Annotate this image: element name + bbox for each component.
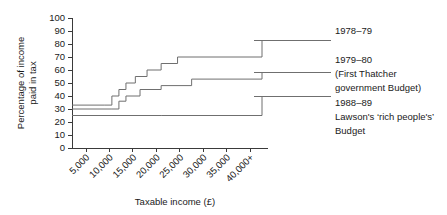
- x-tick-label: 30,000: [180, 152, 208, 180]
- series-line-2: [72, 73, 262, 109]
- x-axis-ticks: [86, 148, 250, 152]
- series-line-3: [72, 96, 262, 116]
- data-series-group: [72, 40, 262, 115]
- y-tick-label: 20: [54, 116, 65, 127]
- chart-container: 0102030405060708090100 5,00010,00015,000…: [0, 0, 447, 215]
- x-tick-label: 15,000: [110, 152, 138, 180]
- legend-label-1-line-1: 1978–79: [335, 25, 372, 36]
- legend-label-3-line-3: Budget: [335, 125, 365, 136]
- x-tick-label: 20,000: [134, 152, 162, 180]
- y-axis-title-line-1: Percentage of income: [15, 37, 26, 129]
- legend-label-2-line-2: (First Thatcher: [335, 68, 397, 79]
- y-tick-label: 100: [49, 12, 65, 23]
- chart-svg: 0102030405060708090100 5,00010,00015,000…: [0, 0, 447, 215]
- legend-label-3-line-2: Lawson's ‘rich people's’: [335, 111, 434, 122]
- y-tick-label: 0: [60, 142, 65, 153]
- series-line-1: [72, 40, 262, 105]
- x-tick-label: 25,000: [157, 152, 185, 180]
- y-tick-label: 50: [54, 77, 65, 88]
- y-axis-ticks: [68, 18, 72, 148]
- y-tick-label: 80: [54, 38, 65, 49]
- legend-leader-lines: [254, 40, 331, 96]
- legend-labels: 1978–791979–80(First Thatchergovernment …: [335, 25, 434, 136]
- x-tick-label: 10,000: [87, 152, 115, 180]
- y-axis-title-line-2: paid in tax: [27, 61, 38, 105]
- y-tick-label: 70: [54, 51, 65, 62]
- y-tick-label: 40: [54, 90, 65, 101]
- y-axis-title: Percentage of incomepaid in tax: [15, 37, 38, 129]
- legend-label-2-line-1: 1979–80: [335, 54, 372, 65]
- y-tick-label: 60: [54, 64, 65, 75]
- y-tick-label: 10: [54, 129, 65, 140]
- y-tick-label: 30: [54, 103, 65, 114]
- x-axis-tick-labels: 5,00010,00015,00020,00025,00030,00035,00…: [67, 151, 256, 184]
- legend-label-2-line-3: government Budget): [335, 82, 421, 93]
- legend-label-3-line-1: 1988–89: [335, 97, 372, 108]
- y-tick-label: 90: [54, 25, 65, 36]
- y-axis-tick-labels: 0102030405060708090100: [49, 12, 65, 153]
- x-axis-title: Taxable income (£): [135, 196, 215, 207]
